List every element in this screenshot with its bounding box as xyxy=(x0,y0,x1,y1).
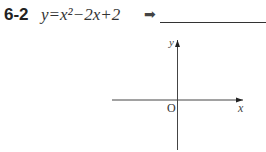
origin-label: O xyxy=(167,101,176,116)
y-arrow-icon xyxy=(175,40,180,47)
y-axis-label: y xyxy=(169,36,174,48)
x-axis-label: x xyxy=(238,101,243,116)
coordinate-axes xyxy=(0,0,266,152)
